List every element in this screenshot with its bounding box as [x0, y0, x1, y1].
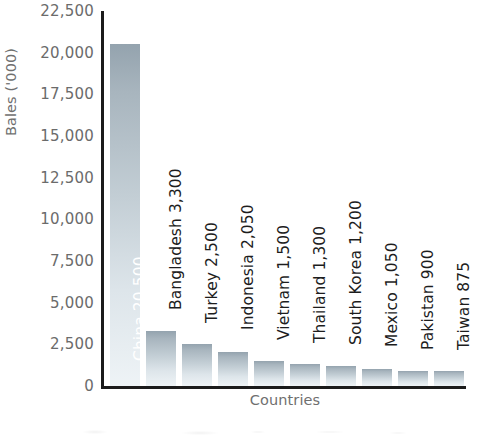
bar-label: Vietnam 1,500: [254, 325, 284, 355]
bar-group[interactable]: Thailand 1,300: [290, 11, 320, 386]
bar[interactable]: [326, 366, 356, 386]
y-axis-tick-label: 22,500: [14, 3, 94, 19]
bar[interactable]: [182, 344, 212, 386]
bar-group[interactable]: Indonesia 2,050: [218, 11, 248, 386]
bar-group[interactable]: Pakistan 900: [398, 11, 428, 386]
scan-artifact: [0, 424, 478, 436]
bar[interactable]: [362, 369, 392, 387]
bar-label: Indonesia 2,050: [218, 316, 248, 346]
bar-group[interactable]: Taiwan 875: [434, 11, 464, 386]
x-axis-line: [101, 386, 466, 389]
bar-label: South Korea 1,200: [326, 330, 356, 360]
y-axis-tick-label: 7,500: [14, 253, 94, 269]
bar-label: Taiwan 875: [434, 335, 464, 365]
y-axis-tick-labels: 22,50020,00017,50015,00012,50010,0007,50…: [14, 0, 98, 436]
bar[interactable]: [254, 361, 284, 386]
y-axis-tick-label: 15,000: [14, 128, 94, 144]
bar[interactable]: [146, 331, 176, 386]
y-axis-tick-label: 17,500: [14, 86, 94, 102]
bar-label: Turkey 2,500: [182, 308, 212, 338]
y-axis-tick-label: 20,000: [14, 45, 94, 61]
x-axis-title: Countries: [104, 392, 466, 408]
bar-group[interactable]: Vietnam 1,500: [254, 11, 284, 386]
bar[interactable]: [398, 371, 428, 386]
plot-area: China 20,500Bangladesh 3,300Turkey 2,500…: [104, 11, 466, 386]
bar[interactable]: [218, 352, 248, 386]
y-axis-tick-label: 5,000: [14, 295, 94, 311]
bar-label: Bangladesh 3,300: [146, 295, 176, 325]
bar-label: Mexico 1,050: [362, 333, 392, 363]
bar-group[interactable]: South Korea 1,200: [326, 11, 356, 386]
bar-chart: Bales ('000) 22,50020,00017,50015,00012,…: [0, 0, 478, 436]
bar[interactable]: [434, 371, 464, 386]
bar-group[interactable]: Mexico 1,050: [362, 11, 392, 386]
y-axis-tick-label: 12,500: [14, 170, 94, 186]
y-axis-tick-label: 0: [14, 378, 94, 394]
bar-group[interactable]: Bangladesh 3,300: [146, 11, 176, 386]
bar[interactable]: [290, 364, 320, 386]
bar-group[interactable]: China 20,500: [110, 11, 140, 386]
bar-label-text: Taiwan 875: [457, 262, 473, 350]
bar-group[interactable]: Turkey 2,500: [182, 11, 212, 386]
bar[interactable]: [110, 44, 140, 386]
y-axis-tick-label: 10,000: [14, 211, 94, 227]
bar-label: Pakistan 900: [398, 335, 428, 365]
y-axis-tick-label: 2,500: [14, 336, 94, 352]
bar-label: Thailand 1,300: [290, 328, 320, 358]
